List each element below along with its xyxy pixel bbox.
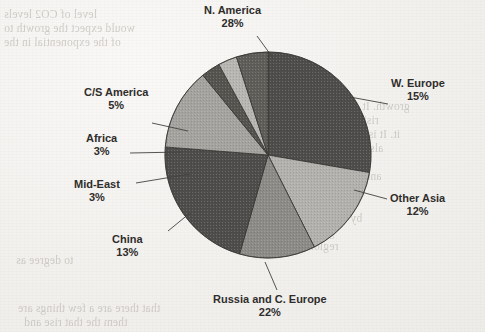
pie-slice-label: Russia and C. Europe22% bbox=[213, 293, 327, 319]
pie-svg bbox=[0, 0, 485, 332]
pie-slice-label-name: Russia and C. Europe bbox=[213, 293, 327, 306]
pie-slice-label-name: Other Asia bbox=[390, 192, 445, 205]
pie-slice-label: China13% bbox=[112, 233, 143, 259]
pie-slice-label-name: N. America bbox=[204, 4, 261, 17]
pie-slice-label: N. America28% bbox=[204, 4, 261, 30]
pie-slice-label-percent: 28% bbox=[204, 17, 261, 30]
pie-slice-label-name: W. Europe bbox=[391, 77, 445, 90]
pie-slice-label: Africa3% bbox=[86, 132, 117, 158]
pie-slice-label: Other Asia12% bbox=[390, 192, 445, 218]
pie-chart: N. America28%W. Europe15%Other Asia12%Ru… bbox=[0, 0, 485, 332]
pie-slice-texture bbox=[268, 52, 371, 173]
pie-slice-label: C/S America5% bbox=[84, 86, 148, 112]
pie-slice-label: Mid-East3% bbox=[74, 178, 120, 204]
pie-slice-label-percent: 22% bbox=[213, 306, 327, 319]
pie-slice-label-name: Mid-East bbox=[74, 178, 120, 191]
pie-slice-label-percent: 5% bbox=[84, 99, 148, 112]
pie-slice-label-percent: 3% bbox=[74, 191, 120, 204]
pie-slice-label-percent: 3% bbox=[86, 145, 117, 158]
pie-slice-group bbox=[165, 52, 371, 258]
pie-slice-label: W. Europe15% bbox=[391, 77, 445, 103]
pie-slice-label-percent: 15% bbox=[391, 90, 445, 103]
leader-line bbox=[168, 213, 190, 231]
pie-slice-label-name: Africa bbox=[86, 132, 117, 145]
leader-line bbox=[265, 262, 277, 290]
pie-slice-label-name: C/S America bbox=[84, 86, 148, 99]
pie-slice-label-percent: 13% bbox=[112, 246, 143, 259]
pie-slice-label-name: China bbox=[112, 233, 143, 246]
pie-slice-label-percent: 12% bbox=[390, 205, 445, 218]
